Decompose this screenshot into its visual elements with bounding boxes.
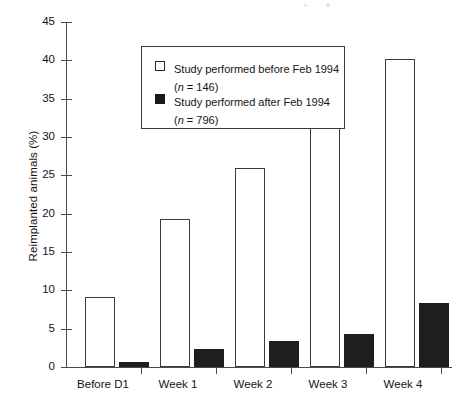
y-tick-label-40: 40 bbox=[42, 53, 55, 65]
legend-entry-text-group: Study performed before Feb 1994 (n = 146… bbox=[174, 59, 339, 95]
scan-artifact bbox=[326, 3, 330, 7]
y-tick-label-25: 25 bbox=[42, 168, 55, 180]
y-tick-40: 40 bbox=[61, 60, 72, 61]
bar-before-feb1994-week-1 bbox=[160, 219, 190, 367]
bar-before-feb1994-week-2 bbox=[235, 168, 265, 367]
x-group-separator bbox=[141, 367, 142, 374]
y-tick-20: 20 bbox=[61, 214, 72, 215]
y-tick-label-10: 10 bbox=[42, 283, 55, 295]
bar-after-feb1994-week-3 bbox=[344, 334, 374, 367]
bar-before-feb1994-week-4 bbox=[385, 59, 415, 367]
legend-n-after-feb1994: (n = 796) bbox=[174, 114, 218, 126]
legend-entry-text-group: Study performed after Feb 1994 (n = 796) bbox=[174, 92, 330, 128]
y-tick-label-35: 35 bbox=[42, 92, 55, 104]
x-axis-line bbox=[66, 367, 452, 368]
legend-label-after-feb1994: Study performed after Feb 1994 bbox=[174, 96, 330, 108]
legend-label-before-feb1994: Study performed before Feb 1994 bbox=[174, 63, 339, 75]
x-group-separator bbox=[216, 367, 217, 374]
legend-entry-after-feb1994: Study performed after Feb 1994 (n = 796) bbox=[155, 92, 330, 128]
scan-artifact bbox=[304, 4, 307, 7]
plot-area: 45 40 35 30 25 20 15 10 5 0 bbox=[66, 22, 452, 368]
y-tick-30: 30 bbox=[61, 137, 72, 138]
bar-before-feb1994-week-3 bbox=[310, 89, 340, 367]
x-group-separator bbox=[291, 367, 292, 374]
x-tick-label-week-4: Week 4 bbox=[384, 378, 423, 390]
chart-legend: Study performed before Feb 1994 (n = 146… bbox=[141, 46, 345, 129]
bar-after-feb1994-week-1 bbox=[194, 349, 224, 367]
bar-after-feb1994-before-d1 bbox=[119, 362, 149, 367]
x-tick-label-week-1: Week 1 bbox=[159, 378, 198, 390]
y-tick-5: 5 bbox=[61, 329, 72, 330]
y-tick-10: 10 bbox=[61, 290, 72, 291]
y-tick-25: 25 bbox=[61, 175, 72, 176]
legend-swatch-filled-icon bbox=[155, 94, 165, 104]
x-tick-label-week-3: Week 3 bbox=[309, 378, 348, 390]
y-axis-title: Reimplanted animals (%) bbox=[27, 86, 39, 306]
y-tick-15: 15 bbox=[61, 252, 72, 253]
y-tick-0: 0 bbox=[61, 367, 72, 368]
x-tick-label-before-d1: Before D1 bbox=[77, 378, 129, 390]
bar-before-feb1994-before-d1 bbox=[85, 297, 115, 367]
y-tick-label-5: 5 bbox=[49, 322, 55, 334]
bar-after-feb1994-week-2 bbox=[269, 341, 299, 367]
legend-entry-before-feb1994: Study performed before Feb 1994 (n = 146… bbox=[155, 59, 339, 95]
y-tick-label-0: 0 bbox=[49, 360, 55, 372]
x-axis-end-tick bbox=[441, 367, 442, 374]
chart-figure: Reimplanted animals (%) 45 40 35 30 25 2… bbox=[0, 0, 460, 402]
y-tick-label-45: 45 bbox=[42, 15, 55, 27]
y-tick-label-20: 20 bbox=[42, 207, 55, 219]
x-group-separator bbox=[366, 367, 367, 374]
bar-after-feb1994-week-4 bbox=[419, 303, 449, 367]
legend-swatch-open-icon bbox=[155, 61, 165, 71]
y-tick-label-30: 30 bbox=[42, 130, 55, 142]
y-tick-label-15: 15 bbox=[42, 245, 55, 257]
x-tick-label-week-2: Week 2 bbox=[234, 378, 273, 390]
y-tick-35: 35 bbox=[61, 99, 72, 100]
y-tick-45: 45 bbox=[61, 22, 72, 23]
y-axis-line bbox=[66, 22, 67, 368]
